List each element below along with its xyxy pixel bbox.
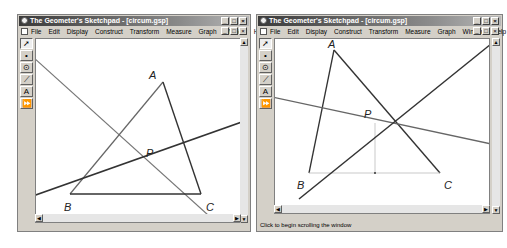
menu-graph[interactable]: Graph	[438, 27, 456, 36]
point-label-c: C	[206, 201, 214, 213]
point-label-b: B	[297, 179, 304, 191]
scroll-up-icon[interactable]: ▲	[492, 38, 500, 46]
window-title: The Geometer's Sketchpad - [circum.gsp]	[30, 17, 168, 24]
menu-measure[interactable]: Measure	[405, 27, 430, 36]
arrow-tool-icon[interactable]: ➚	[20, 38, 33, 49]
document-icon[interactable]	[21, 28, 28, 35]
doc-close-button[interactable]: ×	[239, 27, 247, 35]
status-bar: Click to begin scrolling the window	[258, 221, 501, 230]
minimize-button[interactable]: _	[473, 17, 481, 25]
close-button[interactable]: ×	[491, 17, 499, 25]
scroll-right-icon[interactable]: ▶	[482, 205, 490, 213]
point-label-a: A	[148, 69, 156, 81]
status-bar	[19, 221, 249, 230]
menu-bar: File Edit Display Construct Transform Me…	[258, 27, 501, 36]
point-tool-icon[interactable]: •	[259, 50, 272, 61]
menu-graph[interactable]: Graph	[199, 27, 217, 36]
toolbox: ➚ • ⊙ ⟋ A ⏩	[259, 38, 272, 109]
sketch-canvas[interactable]: A B C P	[274, 38, 490, 214]
text-tool-icon[interactable]: A	[20, 86, 33, 97]
compass-tool-icon[interactable]: ⊙	[20, 62, 33, 73]
arrow-tool-icon[interactable]: ➚	[259, 38, 272, 49]
doc-minimize-button[interactable]: _	[473, 27, 481, 35]
vertical-scrollbar[interactable]: ▲ ▼	[240, 38, 248, 223]
menu-display[interactable]: Display	[67, 27, 88, 36]
point-label-p: P	[146, 147, 154, 159]
title-bar[interactable]: The Geometer's Sketchpad - [circum.gsp] …	[19, 16, 249, 26]
scroll-up-icon[interactable]: ▲	[240, 38, 248, 46]
sketchpad-window-left: The Geometer's Sketchpad - [circum.gsp] …	[17, 14, 251, 232]
menu-transform[interactable]: Transform	[130, 27, 159, 36]
text-tool-icon[interactable]: A	[259, 86, 272, 97]
minimize-button[interactable]: _	[221, 17, 229, 25]
close-button[interactable]: ×	[239, 17, 247, 25]
doc-close-button[interactable]: ×	[491, 27, 499, 35]
maximize-button[interactable]: □	[482, 17, 490, 25]
menu-construct[interactable]: Construct	[334, 27, 362, 36]
point-tool-icon[interactable]: •	[20, 50, 33, 61]
point-label-p: P	[364, 108, 372, 120]
doc-restore-button[interactable]: □	[482, 27, 490, 35]
custom-tool-icon[interactable]: ⏩	[259, 98, 272, 109]
menu-measure[interactable]: Measure	[166, 27, 191, 36]
line-tool-icon[interactable]: ⟋	[259, 74, 272, 85]
line-tool-icon[interactable]: ⟋	[20, 74, 33, 85]
point-label-a: A	[327, 39, 335, 50]
custom-tool-icon[interactable]: ⏩	[20, 98, 33, 109]
scroll-down-icon[interactable]: ▼	[492, 206, 500, 214]
toolbox: ➚ • ⊙ ⟋ A ⏩	[20, 38, 33, 109]
doc-restore-button[interactable]: □	[230, 27, 238, 35]
menu-bar: File Edit Display Construct Transform Me…	[19, 27, 249, 36]
menu-file[interactable]: File	[31, 27, 41, 36]
menu-edit[interactable]: Edit	[48, 27, 59, 36]
compass-tool-icon[interactable]: ⊙	[259, 62, 272, 73]
vertical-scrollbar[interactable]: ▲ ▼	[492, 38, 500, 214]
menu-transform[interactable]: Transform	[369, 27, 398, 36]
menu-display[interactable]: Display	[306, 27, 327, 36]
menu-file[interactable]: File	[270, 27, 280, 36]
doc-minimize-button[interactable]: _	[221, 27, 229, 35]
document-icon[interactable]	[260, 28, 267, 35]
sketch-canvas[interactable]: A B C P	[35, 38, 241, 223]
point-label-c: C	[444, 179, 452, 191]
menu-edit[interactable]: Edit	[287, 27, 298, 36]
point-label-b: B	[64, 201, 71, 213]
title-bar[interactable]: The Geometer's Sketchpad - [circum.gsp] …	[258, 16, 501, 26]
window-title: The Geometer's Sketchpad - [circum.gsp]	[269, 17, 407, 24]
maximize-button[interactable]: □	[230, 17, 238, 25]
horizontal-scrollbar[interactable]: ◀ ▶	[274, 205, 490, 213]
scroll-left-icon[interactable]: ◀	[274, 205, 282, 213]
menu-construct[interactable]: Construct	[95, 27, 123, 36]
app-icon	[260, 17, 267, 24]
app-icon	[21, 17, 28, 24]
sketchpad-window-right: The Geometer's Sketchpad - [circum.gsp] …	[256, 14, 503, 232]
